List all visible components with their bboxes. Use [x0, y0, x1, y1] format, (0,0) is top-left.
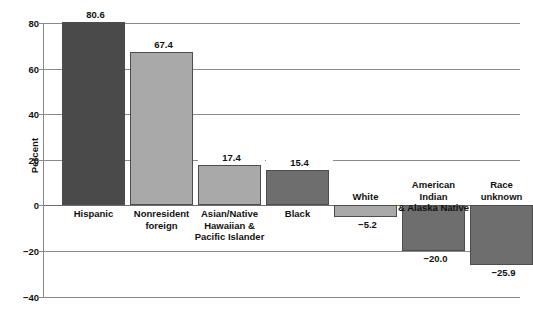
category-label: White: [330, 191, 401, 203]
bar-value-label: −20.0: [402, 253, 469, 264]
bar-value-label: −25.9: [470, 267, 533, 278]
bar: [130, 52, 193, 205]
category-label: Nonresidentforeign: [126, 208, 197, 231]
y-tick-label--20: −20: [1, 246, 39, 257]
category-label: Hispanic: [58, 208, 129, 220]
y-tick-label-20: 20: [1, 155, 39, 166]
category-label-line: White: [330, 191, 401, 203]
category-label-line: Race: [466, 179, 533, 191]
gridline--20: [43, 251, 520, 252]
category-label: American Indian& Alaska Native: [398, 179, 469, 214]
y-tick-label--40: −40: [1, 292, 39, 303]
bar: [62, 22, 125, 205]
category-label-line: Asian/Native: [194, 208, 265, 220]
y-axis-line: [43, 23, 44, 297]
bar: [266, 170, 329, 205]
category-label: Asian/NativeHawaiian &Pacific Islander: [194, 208, 265, 243]
bar-value-label: 80.6: [62, 9, 129, 20]
bar: [198, 165, 261, 205]
y-tick-label-40: 40: [1, 109, 39, 120]
category-label-line: & Alaska Native: [398, 202, 469, 214]
y-tick-label-60: 60: [1, 64, 39, 75]
category-label: Black: [262, 208, 333, 220]
category-label-line: unknown: [466, 191, 533, 203]
bar: [470, 205, 533, 265]
bar-value-label: 17.4: [198, 152, 265, 163]
category-label-line: Hispanic: [58, 208, 129, 220]
category-label-line: Black: [262, 208, 333, 220]
category-label: Raceunknown: [466, 179, 533, 202]
category-label-line: foreign: [126, 220, 197, 232]
bar-value-label: 15.4: [266, 157, 333, 168]
bar: [334, 205, 397, 217]
bar-value-label: −5.2: [334, 219, 401, 230]
category-label-line: Nonresident: [126, 208, 197, 220]
category-label-line: Pacific Islander: [194, 231, 265, 243]
y-tick-label-80: 80: [1, 18, 39, 29]
y-tick-label-0: 0: [1, 200, 39, 211]
gridline--40: [43, 297, 520, 298]
bar-chart: Percent 806040200−20−40 80.6Hispanic67.4…: [0, 0, 533, 316]
category-label-line: Hawaiian &: [194, 220, 265, 232]
bar-value-label: 67.4: [130, 39, 197, 50]
y-axis-ticks: 806040200−20−40: [0, 0, 39, 316]
category-label-line: American Indian: [398, 179, 469, 202]
